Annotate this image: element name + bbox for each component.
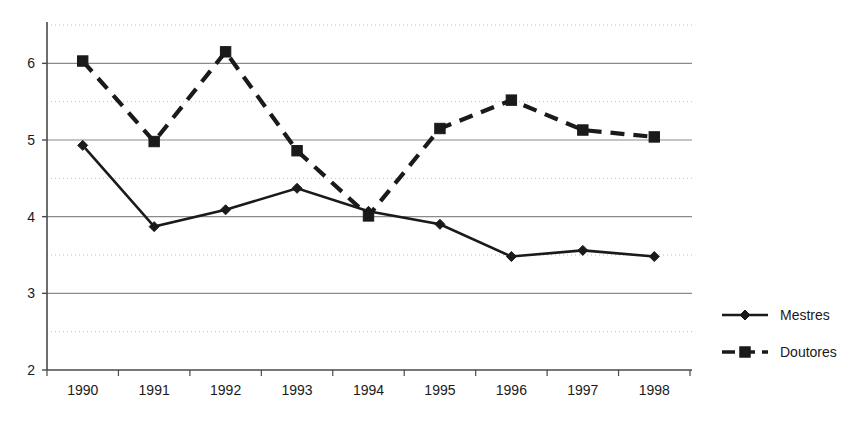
legend-label: Doutores	[780, 344, 837, 360]
y-axis-tick-label: 6	[27, 55, 35, 71]
x-axis-tick-label: 1998	[639, 382, 670, 398]
y-axis-tick-label: 3	[27, 285, 35, 301]
data-point-marker-square	[649, 132, 659, 142]
x-axis-tick-label: 1996	[496, 382, 527, 398]
data-point-marker-square	[578, 125, 588, 135]
chart-canvas: 23456 1990199119921993199419951996199719…	[0, 0, 867, 423]
data-point-marker-square	[220, 47, 230, 57]
x-axis-tick-label: 1994	[353, 382, 384, 398]
data-point-marker-square	[149, 136, 159, 146]
legend-label: Mestres	[780, 307, 830, 323]
x-axis-tick-label: 1991	[139, 382, 170, 398]
x-axis-tick-labels: 199019911992199319941995199619971998	[67, 382, 670, 398]
line-chart: 23456 1990199119921993199419951996199719…	[0, 0, 867, 423]
data-point-marker-square	[506, 95, 516, 105]
x-axis-tick-label: 1993	[281, 382, 312, 398]
x-axis-tick-label: 1992	[210, 382, 241, 398]
data-point-marker-square	[363, 211, 373, 221]
y-axis-tick-label: 2	[27, 362, 35, 378]
x-axis-tick-label: 1997	[567, 382, 598, 398]
data-point-marker-square	[740, 347, 750, 357]
x-axis-tick-label: 1995	[424, 382, 455, 398]
x-axis-tick-label: 1990	[67, 382, 98, 398]
y-axis-tick-label: 5	[27, 132, 35, 148]
data-point-marker-square	[435, 123, 445, 133]
data-point-marker-square	[292, 146, 302, 156]
data-point-marker-square	[78, 56, 88, 66]
y-axis-tick-label: 4	[27, 209, 35, 225]
